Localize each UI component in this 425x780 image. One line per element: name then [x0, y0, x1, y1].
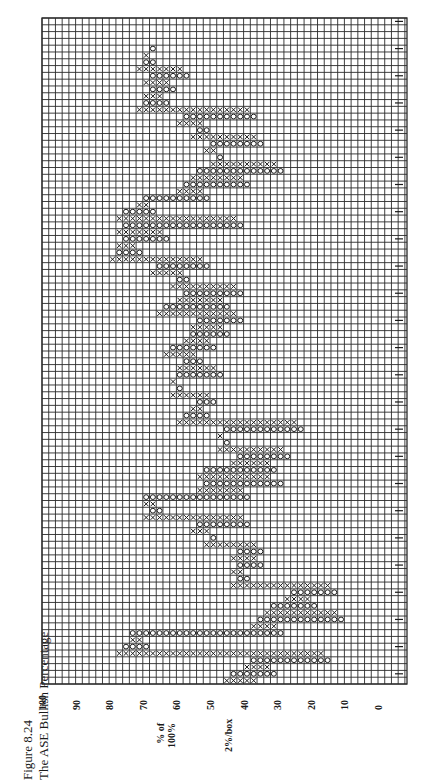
tick-label: 100 [37, 695, 48, 710]
axis-label-percent: % of 100% [155, 723, 177, 748]
tick-label: 70 [138, 700, 149, 710]
axis-label-line1: % of [155, 723, 166, 748]
tick-label: 80 [104, 700, 115, 710]
tick-label: 90 [71, 700, 82, 710]
tick-label: 20 [306, 700, 317, 710]
date-markers [395, 21, 403, 673]
tick-label: 0 [373, 705, 384, 710]
axis-label-line2: 100% [166, 723, 177, 748]
axis-label-box-size: 2%/box [223, 719, 234, 752]
tick-label: 60 [171, 700, 182, 710]
tick-label: 40 [239, 700, 250, 710]
tick-label: 50 [205, 700, 216, 710]
tick-label: 10 [339, 700, 350, 710]
tick-label: 30 [272, 700, 283, 710]
